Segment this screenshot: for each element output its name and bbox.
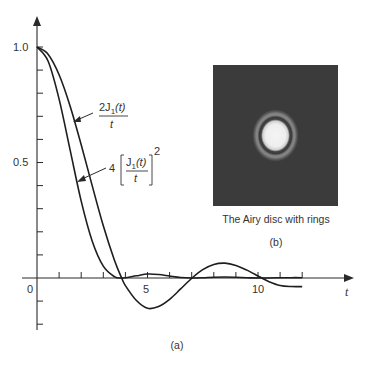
formula-1-arg: (t) bbox=[115, 101, 126, 113]
x-axis-label: t bbox=[345, 285, 349, 299]
formula-2-coef: 4 bbox=[109, 162, 115, 174]
x-axis-arrow-icon bbox=[344, 274, 354, 282]
x-tick-label-5: 5 bbox=[143, 283, 149, 295]
formula-2-arg: (t) bbox=[136, 156, 147, 168]
airy-disc-panel bbox=[213, 65, 338, 206]
panel-a-label: (a) bbox=[171, 339, 184, 351]
annotation-2j1-over-t: 2J1(t) t bbox=[73, 101, 128, 130]
airy-disc-image bbox=[213, 65, 338, 206]
y-tick-label-1: 1.0 bbox=[13, 41, 28, 53]
annotation-arrow-icon bbox=[77, 175, 86, 182]
svg-text:2J1(t): 2J1(t) bbox=[99, 101, 126, 116]
svg-text:J1(t): J1(t) bbox=[126, 156, 147, 171]
formula-2-denominator: t bbox=[134, 172, 138, 184]
annotation-airy-intensity: 4 J1(t) t 2 bbox=[77, 145, 160, 185]
formula-1-denominator: t bbox=[110, 118, 114, 130]
figure: 1.0 0.5 0 5 10 t 2J1(t) t 4 J1(t) t bbox=[0, 0, 367, 367]
y-axis-arrow-icon bbox=[33, 16, 41, 26]
x-tick-label-10: 10 bbox=[252, 283, 264, 295]
x-axis: 0 5 10 t bbox=[22, 272, 354, 299]
panel-b-label: (b) bbox=[270, 236, 283, 248]
x-tick-label-0: 0 bbox=[27, 283, 33, 295]
airy-caption: The Airy disc with rings bbox=[222, 213, 329, 225]
y-tick-label-0-5: 0.5 bbox=[13, 156, 28, 168]
formula-1-numerator: 2J bbox=[99, 101, 111, 113]
formula-2-power: 2 bbox=[154, 145, 160, 157]
